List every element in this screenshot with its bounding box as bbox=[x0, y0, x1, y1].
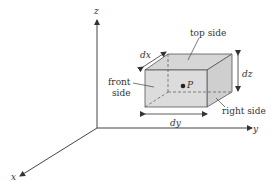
right-side-label: right side bbox=[222, 106, 266, 116]
diagram-canvas: z y x top side front side right side dx … bbox=[0, 0, 273, 181]
point-p-dot bbox=[181, 84, 186, 89]
dy-label: dy bbox=[170, 118, 182, 128]
top-side-label: top side bbox=[190, 28, 226, 38]
z-axis-label: z bbox=[93, 6, 99, 16]
front-face bbox=[145, 70, 207, 107]
front-side-label-line1: front bbox=[108, 77, 131, 87]
x-axis bbox=[20, 128, 97, 176]
dz-label: dz bbox=[242, 69, 253, 79]
x-axis-label: x bbox=[11, 172, 16, 181]
y-axis-label: y bbox=[252, 124, 259, 134]
front-side-label-line2: side bbox=[112, 88, 131, 98]
dx-label: dx bbox=[140, 50, 151, 60]
point-p-label: P bbox=[186, 80, 194, 90]
volume-element-diagram: z y x top side front side right side dx … bbox=[0, 0, 273, 181]
